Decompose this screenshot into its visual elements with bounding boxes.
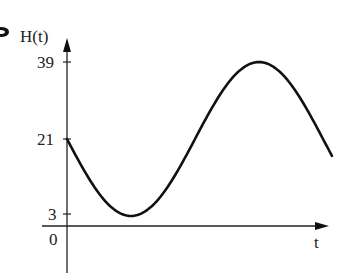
sinusoid-curve xyxy=(67,62,332,216)
y-axis-arrow-icon xyxy=(63,38,71,52)
graph: H(t) 39 21 3 0 t xyxy=(0,0,350,277)
y-tick-label-3: 3 xyxy=(48,205,57,224)
y-axis-label: H(t) xyxy=(20,27,48,46)
y-tick-label-21: 21 xyxy=(37,130,54,149)
x-axis-arrow-icon xyxy=(315,222,329,230)
x-axis-label: t xyxy=(314,233,319,252)
y-tick-label-39: 39 xyxy=(37,53,54,72)
cropped-glyph-icon xyxy=(0,27,9,37)
origin-label: 0 xyxy=(49,230,58,249)
